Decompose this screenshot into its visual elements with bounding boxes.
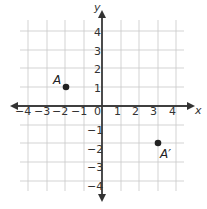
svg-text:4: 4 [94,26,101,39]
svg-text:−3: −3 [87,161,103,174]
x-tick-labels: −4 −3 −2 −1 0 1 2 3 4 [15,105,176,118]
svg-text:−1: −1 [71,105,87,118]
x-axis-label: x [194,104,202,117]
point-a-prime-label: A′ [159,147,171,161]
svg-text:2: 2 [94,63,101,76]
svg-text:−2: −2 [52,105,68,118]
svg-text:4: 4 [169,105,176,118]
svg-text:3: 3 [150,105,157,118]
svg-text:1: 1 [94,82,101,95]
svg-text:3: 3 [94,45,101,58]
svg-text:−3: −3 [34,105,50,118]
coordinate-plane: x y −4 −3 −2 −1 0 1 2 3 4 4 3 2 1 −1 −2 … [0,0,207,209]
point-a [63,84,70,91]
point-a-label: A [52,73,61,87]
svg-text:1: 1 [114,105,121,118]
svg-text:−1: −1 [87,124,103,137]
svg-text:−4: −4 [87,180,103,193]
svg-text:−2: −2 [87,143,103,156]
y-axis-label: y [93,1,101,14]
svg-text:2: 2 [132,105,139,118]
point-a-prime [155,140,162,147]
svg-text:0: 0 [94,105,101,118]
svg-text:−4: −4 [15,105,31,118]
